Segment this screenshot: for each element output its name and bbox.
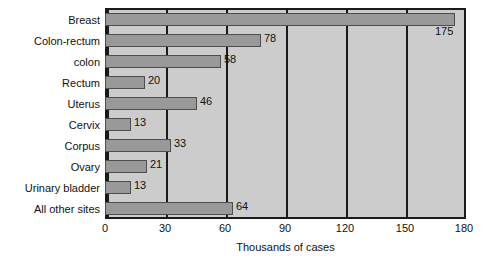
bar-value-label: 13 [134,116,146,129]
bar-row: 46 [105,93,466,114]
bar [105,139,171,152]
x-axis-title: Thousands of cases [105,240,466,254]
x-axis-tick: 150 [396,221,414,235]
bar-value-label: 64 [236,200,248,213]
x-axis-tick: 60 [219,221,231,235]
category-label: Rectum [0,77,100,90]
bar-row: 33 [105,135,466,156]
bar-value-label: 78 [264,32,276,45]
bar-row: 13 [105,177,466,198]
category-label: All other sites [0,203,100,216]
x-axis-tick: 30 [159,221,171,235]
bar-value-label: 58 [224,53,236,66]
bar [105,34,261,47]
x-axis-tick: 120 [336,221,354,235]
bar-value-label: 20 [148,74,160,87]
x-axis-tick-labels: 0 30 60 90 120 150 180 [0,221,496,237]
category-label: Uterus [0,98,100,111]
bar [105,76,145,89]
bar-row: 78 [105,30,466,51]
category-label: Colon-rectum [0,35,100,48]
bar-value-label: 33 [174,137,186,150]
category-label: Cervix [0,119,100,132]
bar [105,118,131,131]
x-axis-tick: 180 [455,221,473,235]
category-label: Ovary [0,161,100,174]
category-label: Urinary bladder [0,182,100,195]
bar [105,97,197,110]
bar-row: 21 [105,156,466,177]
bar-chart: Breast Colon-rectum colon Rectum Uterus … [0,0,496,267]
bar [105,181,131,194]
bar-row: 20 [105,72,466,93]
bar-row: 13 [105,114,466,135]
x-axis-tick: 0 [102,221,108,235]
category-label: colon [0,56,100,69]
bar [105,13,455,26]
bar-row: 64 [105,198,466,219]
x-axis-tick: 90 [279,221,291,235]
bar-value-label: 46 [200,95,212,108]
bar-row: 175 [105,9,466,30]
bar [105,55,221,68]
bar-row: 58 [105,51,466,72]
bar-value-label: 13 [134,179,146,192]
category-label: Breast [0,14,100,27]
bar-value-label: 21 [150,158,162,171]
bar [105,202,233,215]
bar [105,160,147,173]
bars-layer: 175 78 58 20 46 13 33 21 [105,8,466,219]
category-axis-labels: Breast Colon-rectum colon Rectum Uterus … [0,8,100,219]
category-label: Corpus [0,140,100,153]
